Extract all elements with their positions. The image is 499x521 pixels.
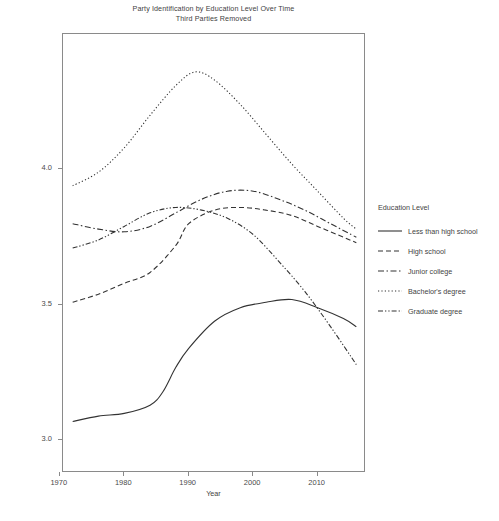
legend-item-label: Graduate degree [408, 307, 462, 316]
y-axis-tick-label: 3.0 [30, 434, 52, 443]
y-axis-tick-label: 4.0 [30, 163, 52, 172]
plot-lines [63, 34, 366, 473]
series-line [73, 299, 357, 421]
legend-line-swatch [377, 245, 403, 257]
chart-title: Party Identification by Education Level … [62, 4, 365, 14]
legend-item-label: Bachelor's degree [408, 287, 466, 296]
legend-item[interactable]: Less than high school [377, 221, 499, 241]
y-axis-tick-label: 3.5 [30, 299, 52, 308]
legend-item[interactable]: Junior college [377, 261, 499, 281]
plot-panel [62, 33, 365, 472]
legend-item-label: Less than high school [408, 227, 478, 236]
series-line [73, 207, 357, 364]
x-axis-tick-mark [59, 472, 60, 476]
legend-item[interactable]: High school [377, 241, 499, 261]
legend-item[interactable]: Graduate degree [377, 301, 499, 321]
x-axis-tick-label: 1970 [39, 478, 79, 487]
legend-item-label: High school [408, 247, 446, 256]
legend-line-swatch [377, 265, 403, 277]
legend-line-swatch [377, 225, 403, 237]
x-axis-tick-label: 2010 [297, 478, 337, 487]
legend-line-swatch [377, 285, 403, 297]
legend-line-swatch [377, 305, 403, 317]
x-axis-tick-label: 1990 [168, 478, 208, 487]
x-axis-label: Year [62, 489, 365, 498]
x-axis-tick-label: 2000 [232, 478, 272, 487]
chart-title-block: Party Identification by Education Level … [62, 4, 365, 24]
legend-title: Education Level [377, 203, 499, 212]
series-line [73, 72, 357, 229]
x-axis-tick-label: 1980 [103, 478, 143, 487]
series-line [73, 207, 357, 302]
legend-item-label: Junior college [408, 267, 452, 276]
legend-item[interactable]: Bachelor's degree [377, 281, 499, 301]
chart-subtitle: Third Parties Removed [62, 14, 365, 24]
chart-figure: Party Identification by Education Level … [0, 0, 499, 521]
chart-legend: Education Level Less than high schoolHig… [377, 203, 499, 321]
